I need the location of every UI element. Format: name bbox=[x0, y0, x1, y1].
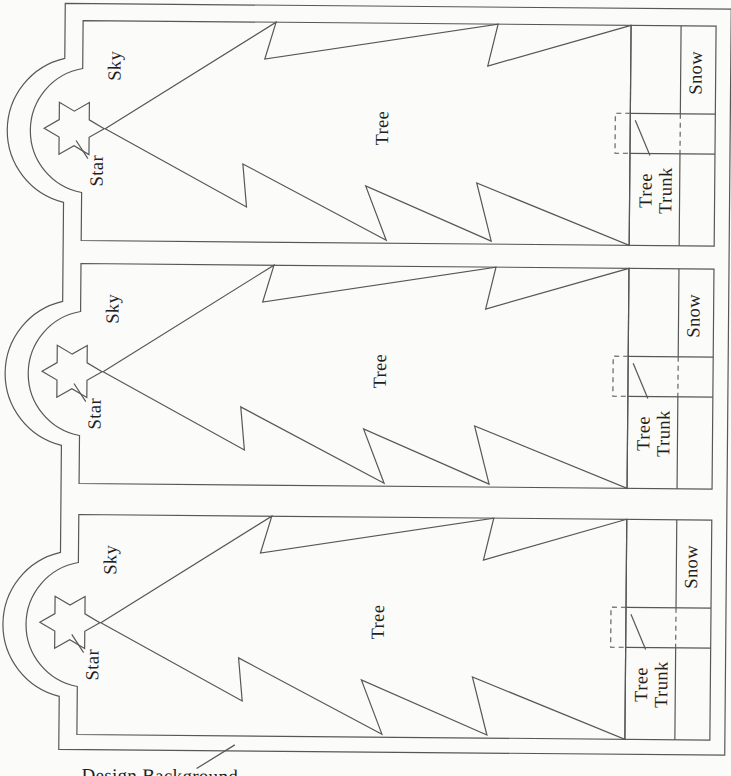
tree-trunk-label-line1: Tree bbox=[631, 667, 651, 702]
tree-label: Tree bbox=[370, 354, 390, 389]
tree-label: Tree bbox=[372, 111, 392, 146]
pattern-drawing: Sky Star Tree Snow Tree Trunk Sky bbox=[0, 0, 731, 776]
tree-trunk-outline bbox=[630, 113, 715, 154]
tree-trunk-label-line1: Tree bbox=[635, 173, 655, 208]
sky-label: Sky bbox=[102, 293, 122, 324]
sky-label: Sky bbox=[100, 544, 120, 575]
scanned-pattern-page: Sky Star Tree Snow Tree Trunk Sky bbox=[0, 0, 731, 776]
sky-label: Sky bbox=[105, 50, 125, 81]
panel-1: Sky Star Tree Snow Tree Trunk bbox=[29, 20, 716, 246]
tree-trunk-leader-line bbox=[631, 614, 646, 649]
snow-label: Snow bbox=[681, 545, 701, 589]
design-background-label: Design Background bbox=[81, 765, 238, 776]
star-label: Star bbox=[84, 398, 104, 430]
tree-base-line bbox=[627, 268, 629, 488]
star-shape bbox=[44, 102, 104, 155]
tree-trunk-hidden-outline bbox=[611, 607, 626, 647]
panel-2: Sky Star Tree Snow Tree Trunk bbox=[27, 263, 714, 489]
tree-trunk-label-line2: Trunk bbox=[655, 167, 675, 214]
snow-label: Snow bbox=[683, 294, 703, 338]
tree-trunk-leader-line bbox=[633, 363, 648, 398]
tree-trunk-label-line2: Trunk bbox=[651, 661, 671, 708]
tree-shape bbox=[100, 515, 627, 740]
tree-base-line bbox=[625, 519, 627, 739]
tree-trunk-label-line2: Trunk bbox=[653, 410, 673, 457]
tree-trunk-hidden-outline bbox=[615, 113, 630, 153]
star-shape bbox=[42, 345, 102, 398]
tree-trunk-hidden-outline bbox=[613, 356, 628, 396]
tree-trunk-outline bbox=[626, 607, 711, 648]
snow-label: Snow bbox=[685, 51, 705, 95]
tree-trunk-leader-line bbox=[635, 120, 650, 155]
design-background-outline bbox=[2, 3, 731, 755]
tree-trunk-outline bbox=[628, 356, 713, 397]
tree-label: Tree bbox=[368, 605, 388, 640]
star-label: Star bbox=[87, 155, 107, 187]
star-shape bbox=[40, 596, 100, 649]
panel-3: Sky Star Tree Snow Tree Trunk bbox=[25, 514, 712, 740]
tree-base-line bbox=[629, 25, 631, 245]
tree-shape bbox=[104, 21, 631, 246]
star-label: Star bbox=[82, 649, 102, 681]
tree-trunk-label-line1: Tree bbox=[633, 416, 653, 451]
tree-shape bbox=[102, 264, 629, 489]
